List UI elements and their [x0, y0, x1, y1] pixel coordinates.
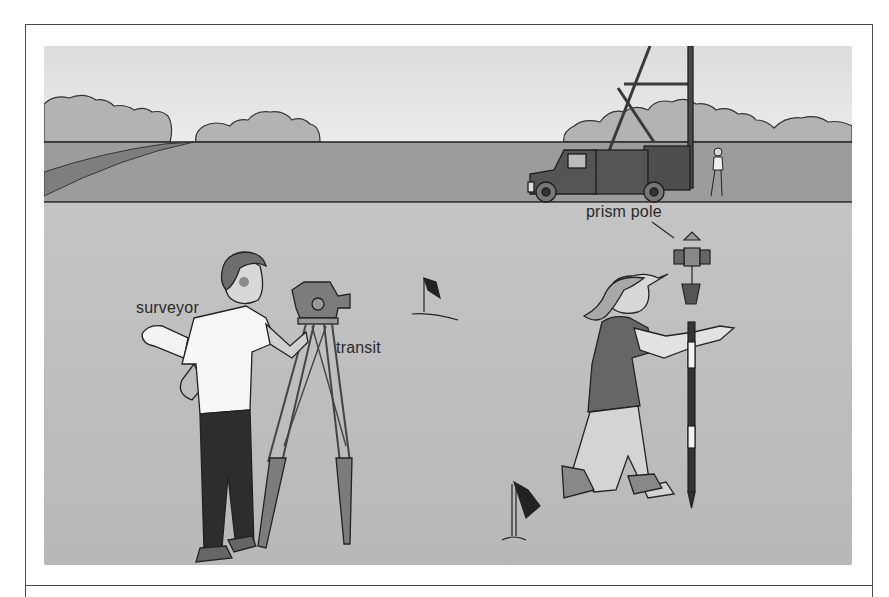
frame-right-border [872, 24, 873, 597]
frame-left-border [25, 24, 26, 597]
label-transit: transit [336, 340, 381, 356]
frame-top-border [25, 24, 873, 25]
label-surveyor: surveyor [136, 300, 199, 316]
frame-divider [25, 585, 873, 586]
survey-illustration: surveyor transit prism pole [44, 46, 852, 565]
label-prism-pole: prism pole [586, 204, 662, 220]
far-field [44, 142, 852, 202]
near-field [44, 203, 852, 565]
